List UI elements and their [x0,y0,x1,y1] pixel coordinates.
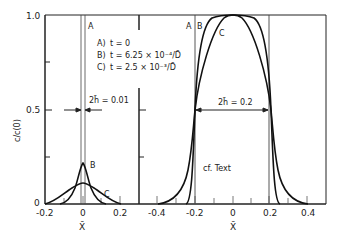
x-axis-label-left: X̄ [79,221,85,232]
x-tick-left-0: 0 [80,208,86,218]
x-tick-right-neg02: -0.2 [186,208,204,218]
y-tick-1: 1.0 [26,11,41,21]
legend-text-c: t = 2.5 × 10⁻³/D̄ [110,62,176,72]
legend-text-b: t = 6.25 × 10⁻⁴/D̄ [110,50,181,60]
legend-key-a: A) [97,39,106,48]
x-tick-right-neg04: -0.4 [148,208,166,218]
curve-label-b-right: B [197,22,203,31]
cf-text-note: cf. Text [203,164,231,173]
x-axis-label-right: X̄ [230,221,236,232]
right-width-annotation: 2h̄ = 0.2 [218,97,253,107]
y-tick-0: 0 [34,198,40,208]
curve-label-c-right: C [219,29,225,38]
x-tick-right-0: 0 [230,208,236,218]
legend-text-a: t = 0 [110,39,130,48]
curve-label-a-left: A [88,22,94,31]
x-tick-right-02: 0.2 [263,208,277,218]
curve-label-c-left: C [104,190,110,199]
left-curve-a [81,15,85,204]
legend-key-b: B) [97,51,106,60]
left-width-arrow [64,108,102,112]
concentration-profile-chart: 1.0 0.5 0 c/c(0) -0.2 0 0.2 X̄ -0.4 -0.2… [0,0,337,236]
curve-label-b-left: B [90,161,96,170]
x-tick-right-04: 0.4 [301,208,316,218]
legend: A) t = 0 B) t = 6.25 × 10⁻⁴/D̄ C) t = 2.… [97,39,181,72]
curve-label-a-right: A [186,22,192,31]
left-width-annotation: 2h̄ = 0.01 [89,95,129,105]
legend-key-c: C) [97,63,106,72]
x-tick-left-neg02: -0.2 [36,208,54,218]
x-tick-left-02: 0.2 [113,208,127,218]
right-width-arrow [196,108,268,112]
y-axis-label: c/c(0) [13,119,22,142]
x-ticks [64,196,307,204]
y-tick-05: 0.5 [26,105,40,115]
